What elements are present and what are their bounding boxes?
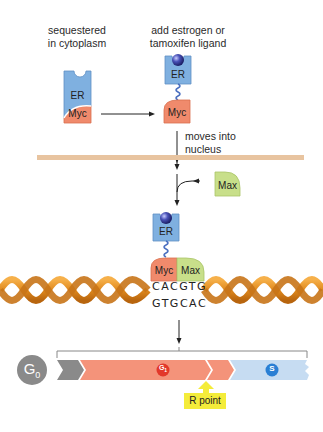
sequestered-label-line1: sequestered xyxy=(42,24,112,37)
linker-spring-icon-bound xyxy=(164,241,168,257)
r-point-label: R point xyxy=(184,395,226,406)
r-point-arrow-icon xyxy=(198,381,214,395)
g0-label: G0 xyxy=(17,360,47,380)
moves-into-nucleus-label: moves into nucleus xyxy=(185,130,255,156)
dna-top-strand: CACGTG xyxy=(152,280,207,293)
g1-label: G1 xyxy=(156,364,170,373)
cell-cycle-arrow xyxy=(177,320,182,344)
linker-spring-icon xyxy=(176,84,180,100)
max-recruit-arrow xyxy=(175,160,201,206)
g0-letter: G xyxy=(24,360,36,377)
max-label: Max xyxy=(215,180,240,191)
activation-arrow xyxy=(101,112,155,117)
nuclear-membrane xyxy=(37,155,304,160)
dna-helix-left xyxy=(0,280,148,301)
dna-helix-right xyxy=(204,280,323,301)
g1-segment xyxy=(80,360,211,380)
sequestered-label-line2: in cytoplasm xyxy=(42,37,112,50)
late-g1-segment xyxy=(207,360,234,380)
ligand-icon-bound xyxy=(160,212,172,224)
er-label-bound: ER xyxy=(153,226,179,237)
myc-label-right: Myc xyxy=(164,107,190,118)
dna-bottom-strand: GTGCAC xyxy=(152,297,207,310)
myc-label-left: Myc xyxy=(64,108,91,119)
max-label-bound: Max xyxy=(177,265,204,276)
er-label-right: ER xyxy=(165,69,191,80)
add-ligand-label-line2: tamoxifen ligand xyxy=(140,37,236,50)
er-label-left: ER xyxy=(64,90,91,101)
g1-bracket xyxy=(57,351,307,358)
add-ligand-label: add estrogen or tamoxifen ligand xyxy=(140,24,236,50)
g0-exit-segment xyxy=(57,360,84,380)
sequestered-label: sequestered in cytoplasm xyxy=(42,24,112,50)
s-label: S xyxy=(265,364,279,373)
ligand-icon xyxy=(172,54,184,66)
myc-label-bound: Myc xyxy=(151,265,177,276)
g1-subscript: 1 xyxy=(164,367,167,373)
moves-label-line2: nucleus xyxy=(185,143,255,156)
moves-label-line1: moves into xyxy=(185,130,255,143)
g0-subscript: 0 xyxy=(35,370,40,380)
add-ligand-label-line1: add estrogen or xyxy=(140,24,236,37)
